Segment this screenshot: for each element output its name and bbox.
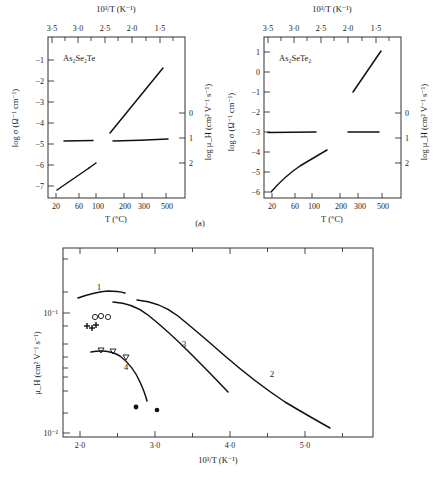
panel-a-left-x-tick-2: 100 xyxy=(92,202,104,211)
panel-a-left-x-tick-1: 60 xyxy=(75,202,83,211)
panel-a-right-x-tick-2: 100 xyxy=(308,202,320,211)
panel-a-left-y2-tick-0: 0 xyxy=(189,109,193,118)
panel-a-right-sigma-lowT-curve xyxy=(271,150,327,192)
panel-a-left-left-ticks xyxy=(48,60,54,186)
panel-b-curve-1 xyxy=(78,291,125,298)
panel-a-right-top-tick-1: 3·0 xyxy=(289,24,300,33)
panel-a-left-top-tick-1: 3·0 xyxy=(73,24,84,33)
panel-a-left-top-tick-3: 2·0 xyxy=(127,24,138,33)
panel-a-right-y-tick-7: −6 xyxy=(251,188,260,197)
panel-a-left-y-axis-title: log σ (Ω⁻¹ cm⁻¹) xyxy=(10,89,20,147)
panel-a-right-sigma-highT-curve xyxy=(353,51,381,92)
panel-a-left-x-tick-3: 200 xyxy=(119,202,131,211)
panel-a-left-top-tick-4: 1·5 xyxy=(155,24,166,33)
panel-a-left-x-axis-title: T (°C) xyxy=(105,214,127,224)
panel-b-y-tick-1: 10⁻² xyxy=(43,429,58,438)
panel-a-left-sigma-highT-curve xyxy=(110,68,163,133)
panel-a-right-x-tick-0: 20 xyxy=(268,202,276,211)
panel-a-left-y-tick-6: −7 xyxy=(35,182,44,191)
panel-a-right-right-ticks xyxy=(395,113,401,163)
panel-a-left-top-tick-0: 3·5 xyxy=(47,24,58,33)
panel-a-right-y-axis-title: log σ (Ω⁻¹ cm⁻¹) xyxy=(226,93,236,151)
panel-a-right-x-tick-4: 300 xyxy=(354,202,366,211)
panel-a-left-top-axis-title: 10³/T (K⁻¹) xyxy=(96,4,136,14)
panel-a-left-sample-label: As₂Se₂Te xyxy=(63,53,95,63)
panel-a-right-top-axis-title: 10³/T (K⁻¹) xyxy=(312,4,352,14)
panel-a-right-left-ticks xyxy=(264,52,270,192)
panel-b-curve-4 xyxy=(91,351,147,401)
panel-b-curve-label-2: 2 xyxy=(270,369,275,379)
panel-a-right-y-tick-1: 0 xyxy=(256,68,260,77)
panel-a-right-y-tick-0: 1 xyxy=(256,48,260,57)
panel-b-filled-circle-markers xyxy=(134,405,160,413)
panel-a-right-top-ticks xyxy=(268,37,389,43)
panel-b-curve-label-1: 1 xyxy=(97,282,102,292)
panel-b-plus-markers xyxy=(84,322,99,331)
panel-a-right-y2-tick-2: 2 xyxy=(405,159,409,168)
figure-svg: 10³/T (K⁻¹) 3·5 3·0 2·5 2·0 1·5 −1 −2 −3… xyxy=(0,0,436,492)
panel-a-left-y-tick-0: −1 xyxy=(35,56,44,65)
panel-a-left-y-tick-1: −2 xyxy=(35,77,44,86)
panel-a-left-y2-axis-title: log μ_H (cm² V⁻¹ s⁻¹) xyxy=(203,84,213,160)
panel-b-top-ticks xyxy=(80,248,343,254)
panel-b: 2·0 3·0 4·0 5·0 10³/T (K⁻¹) 10⁻¹ 10⁻² μ_… xyxy=(32,248,373,465)
panel-a-left-top-tick-2: 2·5 xyxy=(100,24,111,33)
panel-a-left-y-tick-3: −4 xyxy=(35,119,44,128)
panel-a-left-sigma-lowT-curve-ext xyxy=(89,163,96,168)
panel-b-frame xyxy=(63,248,373,437)
panel-a-right-top-tick-3: 2·0 xyxy=(343,24,354,33)
panel-b-curve-label-3: 3 xyxy=(182,339,187,349)
panel-a-left-sigma-lowT-curve xyxy=(57,168,89,190)
panel-a-left-mu-highT-curve xyxy=(113,139,168,141)
panel-b-x-tick-2: 4·0 xyxy=(225,441,236,450)
panel-b-curve-label-4: 4 xyxy=(124,362,129,372)
panel-a-right-x-tick-5: 500 xyxy=(377,202,389,211)
panel-a-left-bottom-ticks xyxy=(56,193,166,198)
panel-a-left-x-tick-0: 20 xyxy=(52,202,60,211)
panel-b-open-triangle-markers xyxy=(98,348,129,360)
panel-a-right-y2-tick-0: 0 xyxy=(405,109,409,118)
panel-a-left-y2-tick-1: 1 xyxy=(189,134,193,143)
panel-a-right-x-tick-3: 200 xyxy=(335,202,347,211)
panel-a-left: 10³/T (K⁻¹) 3·5 3·0 2·5 2·0 1·5 −1 −2 −3… xyxy=(10,4,213,224)
panel-a-right-y2-axis-title: log μ_H (cm² V⁻¹ s⁻¹) xyxy=(419,84,429,160)
panel-a-right-mu-lowT-curve xyxy=(268,132,316,133)
panel-a-right-top-tick-0: 3·5 xyxy=(263,24,274,33)
panel-a-right-y-tick-5: −4 xyxy=(251,148,260,157)
panel-a-right-x-tick-1: 60 xyxy=(291,202,299,211)
panel-b-curve-3 xyxy=(113,302,228,392)
panel-a-left-y-tick-4: −5 xyxy=(35,140,44,149)
panel-b-x-tick-3: 5·0 xyxy=(300,441,311,450)
panel-a-right-top-tick-2: 2·5 xyxy=(316,24,327,33)
panel-a-right-top-tick-4: 1·5 xyxy=(371,24,382,33)
panel-b-x-tick-0: 2·0 xyxy=(75,441,86,450)
panel-a-right-y-tick-6: −5 xyxy=(251,168,260,177)
panel-a-right-y-tick-4: −3 xyxy=(251,128,260,137)
panel-a-right-sample-label: As₂SeTe₂ xyxy=(279,53,311,63)
panel-a-right-bottom-ticks xyxy=(272,193,382,198)
panel-a-right: 10³/T (K⁻¹) 3·5 3·0 2·5 2·0 1·5 1 0 −1 −… xyxy=(226,4,429,224)
panel-a-left-y2-tick-2: 2 xyxy=(189,159,193,168)
panel-a-left-y-tick-2: −3 xyxy=(35,98,44,107)
panel-a-right-y-tick-2: −1 xyxy=(251,88,260,97)
panel-a-left-top-ticks xyxy=(52,37,173,43)
panel-b-left-ticks xyxy=(63,259,70,433)
panel-a-right-y2-tick-1: 1 xyxy=(405,134,409,143)
panel-a-left-x-tick-5: 500 xyxy=(161,202,173,211)
panel-b-y-axis-title: μ_H (cm² V⁻¹ s⁻¹) xyxy=(32,331,42,394)
panel-a-left-right-ticks xyxy=(179,113,185,163)
panel-b-y-tick-0: 10⁻¹ xyxy=(43,309,58,318)
panel-b-open-circle-markers xyxy=(92,313,110,319)
panel-a-right-x-axis-title: T (°C) xyxy=(321,214,343,224)
figure-container: 10³/T (K⁻¹) 3·5 3·0 2·5 2·0 1·5 −1 −2 −3… xyxy=(0,0,436,492)
panel-b-curve-2 xyxy=(137,300,330,428)
panel-b-x-tick-1: 3·0 xyxy=(150,441,161,450)
panel-a-right-y-tick-3: −2 xyxy=(251,108,260,117)
panel-b-x-axis-title: 10³/T (K⁻¹) xyxy=(198,455,238,465)
panel-a-left-x-tick-4: 300 xyxy=(138,202,150,211)
panel-b-bottom-ticks xyxy=(80,431,343,437)
panel-a-left-y-tick-5: −6 xyxy=(35,161,44,170)
panel-a-label: (a) xyxy=(195,218,205,228)
